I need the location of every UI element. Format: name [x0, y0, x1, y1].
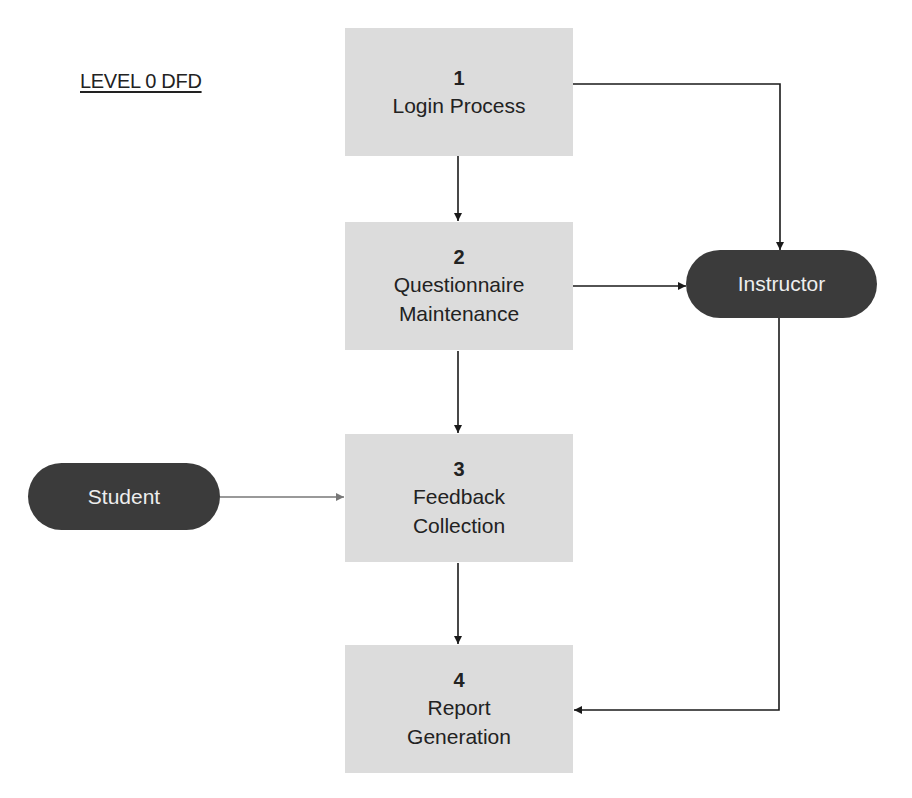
process-number: 3 — [453, 456, 464, 482]
process-label-line-1: Questionnaire — [394, 270, 525, 299]
flow-login-to-instructor — [573, 84, 780, 250]
process-label-line-2: Collection — [413, 511, 505, 540]
process-label-line-2: Maintenance — [399, 299, 519, 328]
process-number: 2 — [453, 244, 464, 270]
process-report-generation: 4 Report Generation — [345, 645, 573, 773]
process-label: Login Process — [392, 91, 525, 120]
process-label-line-1: Feedback — [413, 482, 505, 511]
process-label-line-2: Generation — [407, 722, 511, 751]
process-label-line-1: Report — [427, 693, 490, 722]
process-feedback-collection: 3 Feedback Collection — [345, 434, 573, 562]
dfd-title: LEVEL 0 DFD — [80, 70, 202, 93]
process-number: 4 — [453, 667, 464, 693]
process-login: 1 Login Process — [345, 28, 573, 156]
flow-instructor-to-report — [574, 318, 779, 710]
process-questionnaire-maintenance: 2 Questionnaire Maintenance — [345, 222, 573, 350]
process-number: 1 — [453, 65, 464, 91]
entity-instructor: Instructor — [686, 250, 877, 318]
entity-student: Student — [28, 463, 220, 530]
